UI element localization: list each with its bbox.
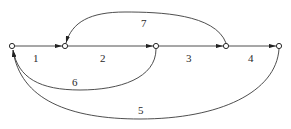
edge-label-4: 4	[248, 52, 254, 64]
node-4	[223, 43, 228, 48]
flow-graph-diagram: 1 2 3 4 7 6 5	[0, 0, 291, 129]
node-2	[62, 43, 67, 48]
node-5	[276, 43, 281, 48]
edge-3: 3	[159, 46, 223, 64]
edge-1: 1	[15, 46, 62, 64]
edge-4: 4	[229, 46, 276, 64]
edge-label-7: 7	[141, 17, 147, 29]
edge-label-2: 2	[100, 52, 106, 64]
node-1	[9, 43, 14, 48]
edge-5: 5	[13, 49, 279, 119]
edge-2: 2	[68, 46, 153, 64]
edge-label-6: 6	[72, 76, 78, 88]
diagram-canvas: 1 2 3 4 7 6 5	[0, 0, 291, 129]
node-3	[153, 43, 158, 48]
edge-label-5: 5	[138, 104, 144, 116]
edge-label-1: 1	[33, 52, 39, 64]
edge-label-3: 3	[186, 52, 192, 64]
edge-7: 7	[66, 12, 226, 43]
